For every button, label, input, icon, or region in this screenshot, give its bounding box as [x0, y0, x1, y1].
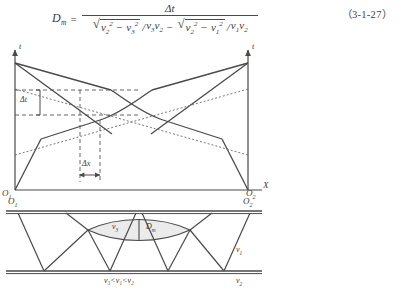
- fraction-denominator: √ v22−v32 / v3v2 − √ v22−v12 / v1v2: [90, 16, 250, 36]
- lens-velocity-label: v3: [112, 222, 118, 233]
- curve-left-refracted: [41, 120, 100, 139]
- delta-t-label: Δt: [20, 95, 27, 104]
- equation-expression: Dm = Δt √ v22−v32 / v3v2 − √ v22−v12: [52, 2, 258, 36]
- divisor-second: v1v2: [231, 19, 248, 35]
- fraction-numerator: Δt: [161, 2, 179, 15]
- equation-lhs: Dm: [52, 11, 67, 27]
- minus-operator: −: [166, 21, 173, 34]
- lower-origin-right-label: O2: [243, 196, 252, 208]
- divide-slash-second: /: [227, 21, 230, 34]
- ray-8: [190, 213, 212, 230]
- equals-sign: =: [71, 13, 77, 25]
- curve-left-tail: [152, 63, 248, 90]
- divide-slash-first: /: [142, 21, 145, 34]
- t-axis-right-label: t: [252, 42, 254, 51]
- raypath-figure: O1 O2 v3 Dm v1 v2 v₃<v₁<v₂: [0, 200, 290, 290]
- curve-right-descending: [151, 63, 248, 134]
- curve-right-refracted: [163, 120, 222, 139]
- radical-second: √ v22−v12: [177, 18, 224, 36]
- t-axis-left-label: t: [19, 42, 21, 51]
- lens-thickness-label: Dm: [146, 222, 156, 233]
- radical-sign-icon: √: [93, 17, 100, 35]
- velocity-inequality-label: v₃<v₁<v₂: [104, 276, 134, 285]
- radical-sign-icon: √: [177, 17, 184, 35]
- delta-t-brace: [36, 90, 40, 115]
- ray-2: [44, 230, 88, 271]
- document-page: Dm = Δt √ v22−v32 / v3v2 − √ v22−v12: [0, 0, 402, 297]
- fraction: Δt √ v22−v32 / v3v2 − √ v22−v12 / v1v2: [82, 2, 258, 36]
- lower-origin-left-label: O1: [8, 196, 17, 208]
- layer2-velocity-label: v2: [236, 276, 242, 287]
- curve-right-direct: [222, 139, 248, 190]
- delta-x-label: Δx: [82, 159, 90, 168]
- x-axis-label: X: [263, 180, 269, 190]
- layer1-velocity-label: v1: [236, 245, 242, 256]
- ray-3: [66, 213, 88, 230]
- radical-first: √ v22−v32: [93, 18, 140, 36]
- curve-right-tail: [15, 63, 111, 90]
- curve-left-direct: [15, 139, 41, 190]
- ray-6: [224, 213, 250, 271]
- curve-left-descending: [15, 63, 112, 134]
- traveltime-svg: [0, 42, 290, 200]
- divisor-first: v3v2: [146, 19, 163, 35]
- ray-1: [18, 213, 44, 271]
- ray-7: [190, 230, 224, 271]
- equation-block: Dm = Δt √ v22−v32 / v3v2 − √ v22−v12: [0, 0, 402, 40]
- equation-number: （3-1-27）: [342, 6, 392, 21]
- traveltime-curve-figure: t t X O1 O2 Δt Δx: [0, 42, 290, 200]
- raypath-svg: [0, 200, 290, 290]
